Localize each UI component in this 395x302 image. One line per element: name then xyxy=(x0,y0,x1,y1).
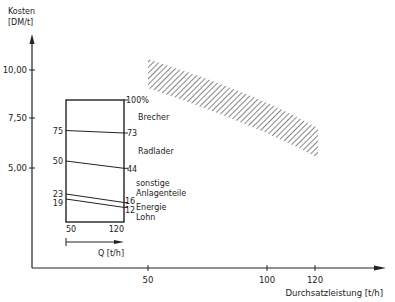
inset-chart: 100% 75 73 50 44 23 16 19 12 Brecher Rad… xyxy=(53,96,186,258)
inset-top-label: 100% xyxy=(126,96,149,105)
segment-anlagenteile: Anlagenteile xyxy=(136,189,186,198)
inset-right-44: 44 xyxy=(127,165,137,174)
y-axis-unit: [DM/t] xyxy=(8,18,33,27)
segment-sonstige: sonstige xyxy=(136,179,170,188)
inset-axis-arrow-icon xyxy=(114,240,124,244)
x-axis-arrow-icon xyxy=(374,266,386,271)
segment-brecher: Brecher xyxy=(138,113,170,122)
inset-x-50: 50 xyxy=(66,225,76,234)
inset-right-16: 16 xyxy=(125,197,135,206)
cost-chart: Kosten [DM/t] 10,00 7,50 5,00 50 100 120… xyxy=(0,0,395,302)
segment-radlader: Radlader xyxy=(138,147,174,156)
x-axis xyxy=(32,265,386,271)
y-tick-10: 10,00 xyxy=(3,65,27,75)
cost-band xyxy=(148,59,318,158)
inset-left-50: 50 xyxy=(53,157,63,166)
segment-energie: Energie xyxy=(136,203,166,212)
inset-right-12: 12 xyxy=(125,206,135,215)
x-tick-50: 50 xyxy=(143,275,154,285)
y-tick-5: 5,00 xyxy=(8,163,27,173)
x-tick-100: 100 xyxy=(259,275,275,285)
y-axis-title: Kosten xyxy=(8,7,35,16)
inset-left-23: 23 xyxy=(53,190,63,199)
x-tick-120: 120 xyxy=(307,275,323,285)
x-axis-title: Durchsatzleistung [t/h] xyxy=(285,288,383,298)
inset-x-title: Q [t/h] xyxy=(98,249,124,258)
y-axis-arrow-icon xyxy=(30,34,35,44)
inset-left-75: 75 xyxy=(53,127,63,136)
inset-left-19: 19 xyxy=(53,199,63,208)
inset-right-73: 73 xyxy=(127,129,137,138)
y-axis xyxy=(29,34,35,268)
inset-x-120: 120 xyxy=(109,225,124,234)
segment-lohn: Lohn xyxy=(136,213,155,222)
y-tick-7-5: 7,50 xyxy=(8,113,27,123)
